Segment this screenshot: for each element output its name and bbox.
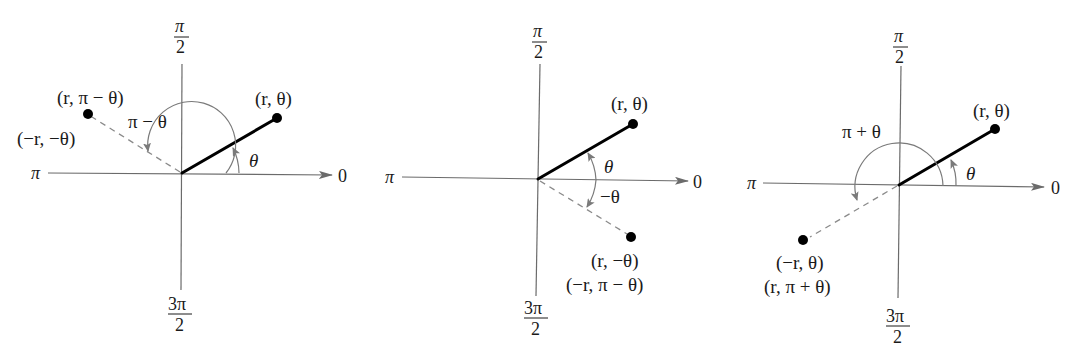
dashed-ray: [810, 186, 897, 237]
angle-label-theta: θ: [249, 150, 258, 171]
label-pi: π: [385, 167, 395, 187]
angle-label-theta: θ: [966, 163, 975, 184]
image-label-line1: (−r, θ): [776, 252, 824, 274]
image-label-line2: (−r, π − θ): [566, 274, 643, 296]
angle-label-image: π − θ: [128, 111, 167, 132]
svg-text:2: 2: [534, 42, 543, 62]
point-image: [626, 232, 636, 242]
ray-r-theta: [899, 129, 995, 185]
label-zero: 0: [338, 166, 347, 186]
svg-text:2: 2: [893, 327, 902, 347]
svg-text:3π: 3π: [524, 298, 542, 318]
panel-reflection-vertical: π 0 π 2 3π 2 (r, θ) (r, π − θ) (−r, −θ) …: [17, 16, 347, 335]
label-pi: π: [31, 163, 41, 183]
polar-symmetry-figure: π 0 π 2 3π 2 (r, θ) (r, π − θ) (−r, −θ) …: [0, 0, 1079, 361]
label-zero: 0: [1051, 178, 1060, 198]
svg-text:2: 2: [176, 37, 185, 57]
label-pi-over-2: π 2: [532, 21, 547, 62]
image-label-line1: (r, π − θ): [57, 87, 124, 109]
theta-arc: [951, 160, 956, 186]
angle-label-theta: θ: [604, 156, 613, 177]
point-label: (r, θ): [611, 93, 648, 115]
ray-r-theta: [538, 124, 633, 179]
panel-reflection-polar-axis: π 0 π 2 3π 2 (r, θ) (r, −θ) (−r, π − θ) …: [385, 21, 702, 339]
image-label-line2: (r, π + θ): [764, 276, 831, 298]
label-3pi-over-2: 3π 2: [524, 298, 548, 339]
point-image: [83, 109, 93, 119]
panel-reflection-pole: π 0 π 2 3π 2 (r, θ) (−r, θ) (r, π + θ) π…: [747, 26, 1060, 347]
vertical-axis: [181, 64, 182, 290]
label-pi-over-2: π 2: [893, 26, 908, 67]
vertical-axis: [898, 66, 901, 298]
angle-label-image: −θ: [600, 186, 620, 207]
svg-text:π: π: [533, 21, 543, 41]
point-label: (r, θ): [973, 100, 1010, 122]
theta-arc: [588, 153, 596, 180]
svg-text:2: 2: [895, 47, 904, 67]
svg-text:π: π: [175, 16, 185, 36]
theta-arc: [233, 148, 239, 173]
label-3pi-over-2: 3π 2: [168, 294, 192, 335]
neg-theta-arc: [587, 180, 596, 207]
svg-text:2: 2: [175, 315, 184, 335]
polar-axis: [402, 177, 688, 181]
point-label: (r, θ): [255, 88, 292, 110]
svg-text:3π: 3π: [168, 294, 186, 314]
angle-label-image: π + θ: [842, 121, 881, 142]
label-pi-over-2: π 2: [174, 16, 189, 57]
label-pi: π: [747, 173, 757, 193]
polar-axis: [48, 173, 332, 175]
svg-text:2: 2: [531, 319, 540, 339]
image-label-line1: (r, −θ): [591, 250, 639, 272]
ray-r-theta: [182, 118, 277, 173]
svg-text:π: π: [894, 26, 904, 46]
label-3pi-over-2: 3π 2: [886, 306, 910, 347]
svg-text:3π: 3π: [886, 306, 904, 326]
image-label-line2: (−r, −θ): [17, 128, 75, 150]
point-r-theta: [628, 119, 638, 129]
point-image: [798, 235, 808, 245]
point-r-theta: [990, 124, 1000, 134]
point-r-theta: [272, 113, 282, 123]
label-zero: 0: [693, 172, 702, 192]
